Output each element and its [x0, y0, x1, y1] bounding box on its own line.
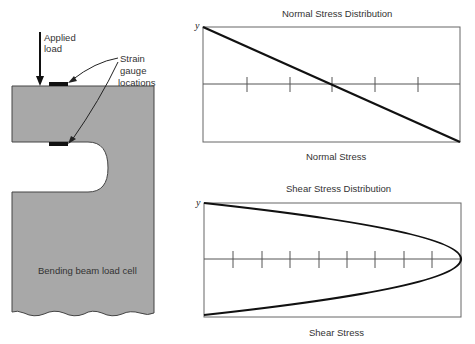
- normal-stress-y-label: y: [195, 20, 199, 31]
- diagram-canvas: [0, 0, 475, 344]
- strain-gauge-label-1: Strain: [120, 53, 145, 64]
- normal-stress-title: Normal Stress Distribution: [282, 8, 392, 19]
- normal-stress-x-label: Normal Stress: [306, 151, 366, 162]
- applied-load-arrowhead: [36, 76, 44, 86]
- strain-gauge-label-3: locations: [118, 77, 156, 88]
- shear-stress-y-label: y: [196, 197, 200, 208]
- shear-stress-title: Shear Stress Distribution: [286, 183, 391, 194]
- applied-load-label-1: Applied: [44, 32, 76, 43]
- load-cell-body: [12, 86, 154, 316]
- shear-stress-x-label: Shear Stress: [309, 327, 364, 338]
- strain-gauge-top: [49, 82, 68, 86]
- load-cell-caption: Bending beam load cell: [38, 265, 137, 276]
- applied-load-label-2: load: [44, 43, 62, 54]
- strain-gauge-label-2: gauge: [120, 65, 146, 76]
- strain-gauge-bottom: [49, 142, 68, 146]
